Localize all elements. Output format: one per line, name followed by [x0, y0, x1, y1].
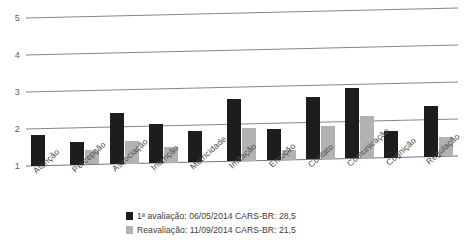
- x-axis-category-labels: AtençãoPercepçãoAssociaçãoIntençãoMotric…: [26, 166, 458, 206]
- bars-layer: [26, 18, 458, 166]
- legend-label-primary: 1ª avaliação: 06/05/2014 CARS-BR: 28,5: [137, 211, 296, 221]
- y-axis-tick-1: 1: [15, 162, 20, 171]
- legend-swatch-secondary-icon: [126, 226, 133, 234]
- chart-legend: 1ª avaliação: 06/05/2014 CARS-BR: 28,5 R…: [126, 209, 386, 237]
- y-axis-tick-4: 4: [15, 51, 20, 60]
- legend-item: 1ª avaliação: 06/05/2014 CARS-BR: 28,5: [126, 209, 386, 222]
- bar-primary: [345, 88, 359, 158]
- y-axis-tick-5: 5: [15, 14, 20, 23]
- y-axis-tick-labels: 12345: [0, 18, 26, 166]
- y-axis-tick-2: 2: [15, 125, 20, 134]
- legend-label-secondary: Reavaliação: 11/09/2014 CARS-BR: 21,5: [137, 225, 296, 235]
- legend-swatch-primary-icon: [126, 212, 133, 220]
- legend-item: Reavaliação: 11/09/2014 CARS-BR: 21,5: [126, 223, 386, 236]
- bar-chart: 12345 AtençãoPercepçãoAssociaçãoIntenção…: [0, 0, 466, 249]
- plot-area: [26, 18, 458, 166]
- y-axis-tick-3: 3: [15, 88, 20, 97]
